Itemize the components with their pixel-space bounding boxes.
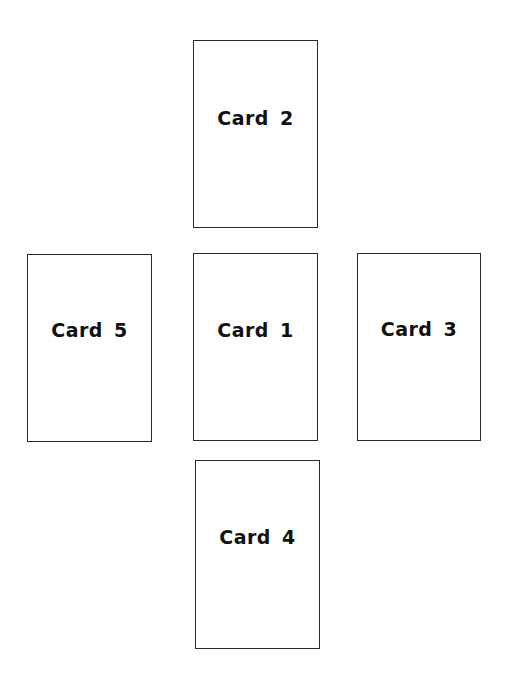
card-4: Card 4 <box>195 460 320 649</box>
card-label: Card 1 <box>194 319 317 341</box>
card-2: Card 2 <box>193 40 318 228</box>
card-label: Card 5 <box>28 319 151 341</box>
card-label: Card 2 <box>194 107 317 129</box>
card-label: Card 4 <box>196 526 319 548</box>
card-3: Card 3 <box>357 253 481 441</box>
card-label: Card 3 <box>358 318 480 340</box>
card-5: Card 5 <box>27 254 152 442</box>
card-1: Card 1 <box>193 253 318 441</box>
